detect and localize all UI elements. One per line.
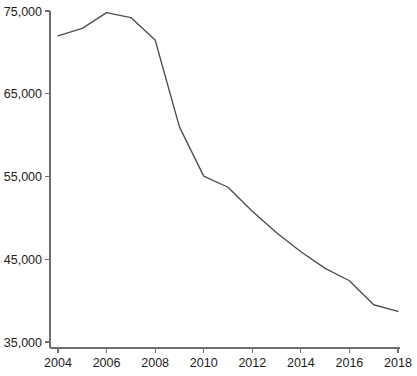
chart-canvas: 75,00065,00055,00045,00035,000 200420062… (0, 0, 417, 376)
y-axis-tick-label: 55,000 (4, 170, 42, 184)
x-axis-tick-label: 2014 (287, 356, 315, 370)
x-axis-tick-label: 2012 (238, 356, 266, 370)
y-axis: 75,00065,00055,00045,00035,000 (4, 5, 50, 350)
y-axis-tick-label: 75,000 (4, 5, 42, 19)
x-axis-tick-marks (58, 348, 398, 353)
y-axis-tick-label: 35,000 (4, 336, 42, 350)
x-axis-tick-label: 2016 (336, 356, 364, 370)
x-axis-tick-label: 2010 (190, 356, 218, 370)
y-axis-tick-marks (45, 11, 50, 342)
y-axis-tick-label: 65,000 (4, 87, 42, 101)
x-axis-tick-label: 2004 (44, 356, 72, 370)
x-axis-tick-label: 2018 (384, 356, 412, 370)
x-axis-tick-label: 2006 (93, 356, 121, 370)
x-axis-tick-label: 2008 (141, 356, 169, 370)
plot-area (58, 13, 398, 312)
line-chart: 75,00065,00055,00045,00035,000 200420062… (0, 0, 417, 376)
y-axis-tick-labels: 75,00065,00055,00045,00035,000 (4, 5, 42, 350)
data-series-line (58, 13, 398, 312)
x-axis-tick-labels: 20042006200820102012201420162018 (44, 356, 412, 370)
x-axis: 20042006200820102012201420162018 (44, 348, 412, 370)
y-axis-tick-label: 45,000 (4, 253, 42, 267)
